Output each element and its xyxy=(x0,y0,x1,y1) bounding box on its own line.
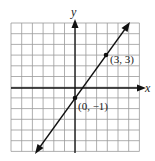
point-b-label: (0, −1) xyxy=(78,100,108,113)
point-a-label: (3, 3) xyxy=(110,53,134,66)
y-axis-label: y xyxy=(70,5,77,19)
axes xyxy=(11,19,146,153)
line-arrow-down-icon xyxy=(35,144,44,154)
coordinate-plane: x y (3, 3) (0, −1) xyxy=(0,0,155,161)
point-3-3 xyxy=(104,53,109,58)
x-axis-label: x xyxy=(144,81,151,95)
point-0-neg1 xyxy=(73,96,78,101)
y-axis-arrow-icon xyxy=(72,19,79,28)
